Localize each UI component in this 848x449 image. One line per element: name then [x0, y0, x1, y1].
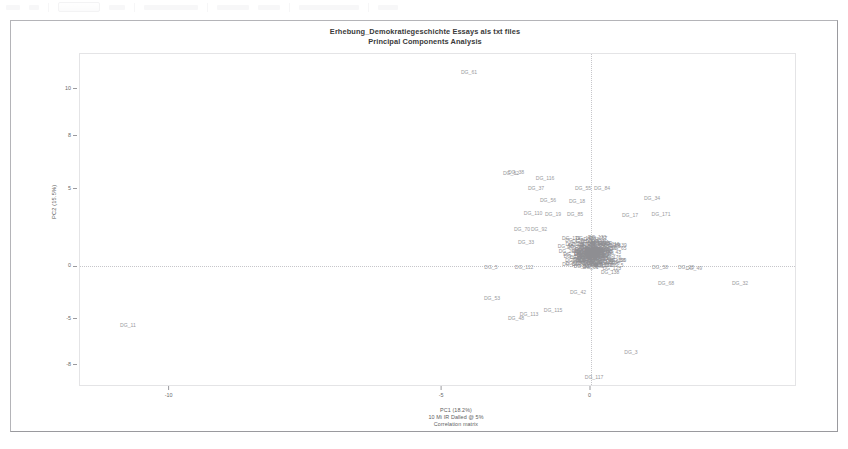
toolbar-icon-zoom[interactable]	[258, 5, 280, 10]
y-axis-tick-label: 0	[68, 262, 71, 268]
y-axis-tick-mark	[73, 364, 77, 365]
scatter-point-label: DG_138	[564, 254, 582, 259]
y-axis-tick-mark	[73, 318, 77, 319]
scatter-point-label: DG_50	[580, 242, 596, 247]
x-axis-footnote: Correlation matrix	[341, 421, 571, 428]
scatter-point-label: DG_134	[574, 257, 592, 262]
scatter-point-label: DG_157	[589, 235, 607, 240]
scatter-point-label: DG_19	[545, 211, 561, 217]
x-axis-tick: -10	[165, 386, 173, 398]
scatter-point-label: DG_61	[461, 69, 477, 75]
x-axis-tick: -5	[439, 386, 444, 398]
scatter-point-label: DG_81	[592, 254, 608, 259]
toolbar-icon-group-chart[interactable]	[299, 5, 359, 10]
scatter-point-label: DG_16	[580, 260, 596, 265]
toolbar-icon-group-edit[interactable]	[144, 5, 198, 10]
scatter-point-label: DG_65	[575, 246, 591, 251]
x-axis-tick-mark	[168, 386, 169, 390]
scatter-point-label: DG_85	[589, 250, 605, 255]
scatter-point-label: DG_176	[584, 247, 602, 252]
scatter-point-label: DG_53	[584, 250, 600, 255]
scatter-point-label: DG_85	[567, 211, 583, 217]
y-axis-tick-mark	[73, 88, 77, 89]
scatter-point-label: DG_48	[508, 315, 524, 321]
scatter-point-label: DG_33	[518, 239, 534, 245]
scatter-point-label: DG_177	[586, 251, 604, 256]
toolbar-icon-group-view[interactable]	[217, 5, 249, 10]
scatter-point-label: DG_120	[608, 257, 626, 262]
scatter-point-label: DG_71	[572, 239, 588, 244]
scatter-point-label: DG_176	[577, 255, 595, 260]
toolbar-dropdown-font[interactable]	[58, 2, 100, 12]
toolbar-separator	[134, 3, 135, 12]
scatter-point-label: DG_117	[585, 374, 604, 380]
x-axis-tick-mark	[589, 386, 590, 390]
scatter-point-label: DG_144	[563, 252, 581, 257]
scatter-point-label: DG_38	[508, 169, 524, 175]
scatter-point-label: DG_156	[577, 254, 595, 259]
y-axis-tick-label: -8	[66, 361, 71, 367]
plot-window: Erhebung_Demokratiegeschichte Essays als…	[10, 20, 838, 432]
y-axis-tick: 0	[68, 262, 77, 268]
scatter-point-label: DG_137	[579, 257, 597, 262]
scatter-point-label: DG_122	[595, 259, 613, 264]
scatter-point-label: DG_15	[595, 248, 611, 253]
plot-area[interactable]: DG_61DG_11DG_3DG_117DG_32DG_53DG_5DG_112…	[79, 53, 796, 386]
scatter-point-label: DG_112	[577, 249, 595, 254]
y-axis-tick: 10	[65, 85, 77, 91]
scatter-point-label: DG_99	[584, 251, 600, 256]
scatter-point-label: DG_143	[592, 241, 610, 246]
scatter-point-label: DG_106	[601, 261, 619, 266]
scatter-point-label: DG_45	[575, 246, 591, 251]
scatter-point-label: DG_101	[586, 248, 604, 253]
toolbar-separator	[207, 3, 208, 12]
scatter-point-layer: DG_61DG_11DG_3DG_117DG_32DG_53DG_5DG_112…	[80, 54, 795, 385]
y-axis-tick-label: 8	[68, 132, 71, 138]
scatter-point-label: DG_33	[599, 259, 615, 264]
toolbar-separator	[368, 3, 369, 12]
scatter-point-label: DG_139	[594, 240, 612, 245]
chart-subtitle: Principal Components Analysis	[11, 37, 839, 47]
toolbar-icon-new[interactable]	[6, 5, 20, 10]
scatter-point-label: DG_11	[120, 322, 136, 328]
y-axis-tick: -5	[66, 315, 77, 321]
scatter-point-label: DG_89	[580, 257, 596, 262]
scatter-point-label: DG_139	[596, 256, 614, 261]
scatter-point-label: DG_115	[544, 307, 563, 313]
scatter-point-label: DG_65	[611, 245, 627, 250]
scatter-point-label: DG_38	[598, 250, 614, 255]
x-axis-tick-label: -5	[439, 392, 444, 398]
toolbar-icon-save[interactable]	[109, 5, 125, 10]
scatter-point-label: DG_180	[565, 257, 583, 262]
x-axis-subnote: 10 Mi IR Dalled @ 5%	[341, 414, 571, 421]
toolbar-icon-help[interactable]	[378, 5, 398, 10]
scatter-point-label: DG_65	[586, 246, 602, 251]
scatter-point-label: DG_57	[567, 244, 583, 249]
application-toolbar[interactable]	[0, 0, 848, 14]
horizontal-gridline	[80, 266, 795, 267]
scatter-point-label: DG_18	[569, 198, 585, 204]
scatter-point-label: DG_17	[622, 212, 638, 218]
toolbar-icon-open[interactable]	[29, 5, 39, 10]
scatter-point-label: DG_44	[592, 247, 608, 252]
scatter-point-label: DG_16	[574, 248, 590, 253]
scatter-point-label: DG_176	[603, 255, 621, 260]
y-axis-tick-label: 10	[65, 85, 71, 91]
scatter-point-label: DG_59	[576, 249, 592, 254]
scatter-point-label: DG_69	[593, 244, 609, 249]
y-axis-tick-mark	[73, 266, 77, 267]
scatter-point-label: DG_37	[528, 185, 544, 191]
scatter-point-label: DG_4	[585, 245, 598, 250]
scatter-point-label: DG_115	[577, 255, 595, 260]
scatter-point-label: DG_158	[565, 237, 583, 242]
scatter-point-label: DG_18	[591, 254, 607, 259]
scatter-point-label: DG_138	[601, 270, 619, 275]
scatter-point-label: DG_173	[586, 253, 604, 258]
scatter-point-label: DG_79	[587, 260, 603, 265]
scatter-point-label: DG_70	[514, 226, 530, 232]
scatter-point-label: DG_147	[572, 258, 590, 263]
scatter-point-label: DG_47	[572, 241, 588, 246]
y-axis-tick-label: 5	[68, 185, 71, 191]
scatter-point-label: DG_19	[569, 242, 585, 247]
scatter-point-label: DG_48	[585, 251, 601, 256]
